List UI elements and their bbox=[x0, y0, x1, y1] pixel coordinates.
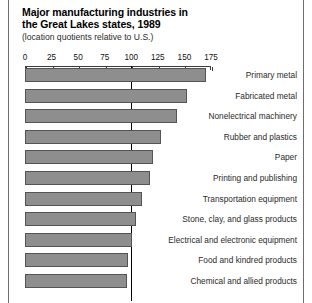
x-axis-tick-label: 75 bbox=[100, 53, 109, 62]
category-label: Printing and publishing bbox=[213, 171, 297, 185]
frame-right-rule bbox=[303, 0, 304, 303]
category-label: Transportation equipment bbox=[203, 192, 297, 206]
category-label: Rubber and plastics bbox=[224, 130, 297, 144]
chart-subtitle: (location quotients relative to U.S.) bbox=[22, 32, 292, 43]
x-axis-tick-label: 25 bbox=[47, 53, 56, 62]
category-label: Fabricated metal bbox=[235, 89, 297, 103]
x-axis-tick-label: 150 bbox=[178, 53, 192, 62]
category-label: Primary metal bbox=[246, 68, 297, 82]
chart-title-block: Major manufacturing industries in the Gr… bbox=[22, 6, 292, 43]
chart-figure: Major manufacturing industries in the Gr… bbox=[0, 0, 312, 303]
chart-title-line-2: the Great Lakes states, 1989 bbox=[22, 18, 292, 30]
category-label: Chemical and allied products bbox=[190, 274, 297, 288]
category-label: Paper bbox=[275, 150, 297, 164]
x-axis-tick-label: 0 bbox=[23, 53, 28, 62]
category-label: Electrical and electronic equipment bbox=[168, 233, 297, 247]
x-axis-tick-label: 175 bbox=[204, 53, 218, 62]
category-label: Stone, clay, and glass products bbox=[182, 212, 297, 226]
x-axis-tick-label: 125 bbox=[151, 53, 165, 62]
x-axis-tick-label: 50 bbox=[74, 53, 83, 62]
category-label: Nonelectrical machinery bbox=[208, 109, 297, 123]
category-label-column: Primary metalFabricated metalNonelectric… bbox=[0, 68, 297, 299]
category-label: Food and kindred products bbox=[198, 253, 297, 267]
chart-title-line-1: Major manufacturing industries in bbox=[22, 6, 292, 18]
x-axis-tick-label: 100 bbox=[124, 53, 138, 62]
